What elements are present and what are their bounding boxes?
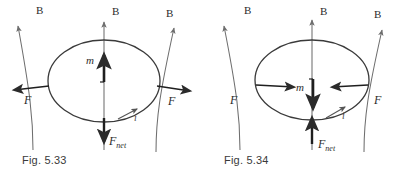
force-vector-left (256, 85, 294, 87)
net-force-label: Fnet (318, 138, 335, 153)
net-force-subscript: net (325, 144, 335, 153)
figure-caption: Fig. 5.33 (22, 154, 67, 166)
field-label-right: B (374, 9, 381, 20)
figure-5-33: B B B F F m i Fnet Fig. 5.33 (0, 0, 202, 182)
current-label: i (134, 113, 137, 123)
figure-sheet: B B B F F m i Fnet Fig. 5.33 (0, 0, 404, 182)
field-label-left: B (36, 5, 43, 16)
magnetic-moment-vector (100, 55, 104, 82)
force-vector-right (332, 85, 368, 87)
force-label-right: F (168, 95, 175, 107)
field-label-center: B (320, 6, 327, 17)
field-label-center: B (112, 6, 119, 17)
force-label-left: F (24, 94, 31, 106)
field-label-right: B (166, 8, 173, 19)
field-label-left: B (244, 5, 251, 16)
net-force-label: Fnet (109, 135, 126, 150)
magnetic-moment-vector (309, 79, 313, 108)
moment-label: m (296, 82, 304, 93)
current-label: i (342, 111, 345, 121)
figure-5-34: B B B F F m i Fnet Fig. 5.34 (202, 0, 404, 182)
figure-caption: Fig. 5.34 (224, 154, 269, 166)
field-line-left (224, 26, 240, 150)
moment-label: m (86, 55, 94, 66)
force-label-right: F (374, 94, 381, 106)
force-vector-left (14, 86, 49, 90)
net-force-subscript: net (116, 141, 126, 150)
force-label-left: F (230, 94, 237, 106)
